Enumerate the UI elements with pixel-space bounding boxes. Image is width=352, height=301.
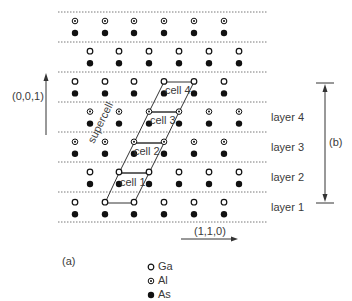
layer-2-label: layer 2	[271, 172, 304, 183]
cell-1-label: cell 1	[120, 177, 146, 188]
ga-atom	[102, 79, 108, 85]
al-atom	[72, 18, 78, 24]
as-atom	[176, 181, 182, 187]
al-atom	[72, 139, 78, 145]
cell-2-label: cell 2	[134, 146, 160, 157]
vertical-axis-label: (0,0,1)	[12, 91, 44, 102]
as-atom	[146, 60, 152, 66]
al-atom	[176, 109, 182, 115]
as-atom	[161, 151, 167, 157]
as-atom	[221, 151, 227, 157]
as-atom	[206, 60, 212, 66]
ga-atom	[87, 48, 93, 54]
legend-item-al: Al	[147, 275, 168, 286]
cell-4-label: cell 4	[165, 85, 191, 96]
vertical-axis-arrow	[44, 73, 49, 135]
as-atom	[72, 90, 78, 96]
as-atom	[221, 90, 227, 96]
as-atom	[72, 151, 78, 157]
as-atom	[176, 120, 182, 126]
al-atom	[87, 109, 93, 115]
ga-atom	[221, 199, 227, 205]
layer-1-label: layer 1	[271, 202, 304, 213]
ga-atom	[146, 48, 152, 54]
as-atom	[102, 90, 108, 96]
al-atom	[102, 18, 108, 24]
as-atom	[236, 60, 242, 66]
al-atom	[161, 18, 167, 24]
ga-atom	[72, 79, 78, 85]
ga-atom	[131, 79, 137, 85]
al-atom	[236, 109, 242, 115]
layer-3-label: layer 3	[271, 142, 304, 153]
ga-atom	[176, 48, 182, 54]
ga-atom	[72, 199, 78, 205]
ga-atom	[191, 79, 197, 85]
legend-label-al: Al	[158, 275, 168, 286]
horizontal-axis-arrow	[181, 237, 238, 242]
as-atom	[191, 90, 197, 96]
as-atom	[102, 211, 108, 217]
ga-atom	[176, 169, 182, 175]
ga-atom	[191, 199, 197, 205]
as-atom	[102, 30, 108, 36]
as-atom	[131, 90, 137, 96]
as-atom	[206, 181, 212, 187]
ga-atom	[116, 48, 122, 54]
as-atom	[221, 30, 227, 36]
legend-label-ga: Ga	[158, 261, 173, 272]
as-atom	[87, 181, 93, 187]
horizontal-axis-label: (1,1,0)	[194, 226, 226, 237]
al-atom	[191, 18, 197, 24]
ga-atom	[146, 169, 152, 175]
as-atom	[161, 211, 167, 217]
legend-item-ga: Ga	[147, 261, 173, 272]
open-circle-icon	[147, 263, 155, 271]
as-atom	[206, 120, 212, 126]
ga-atom	[221, 79, 227, 85]
layer-4-label: layer 4	[271, 112, 304, 123]
legend-label-as: As	[158, 289, 171, 300]
as-atom	[116, 60, 122, 66]
as-atom	[191, 151, 197, 157]
ga-atom	[161, 199, 167, 205]
al-atom	[221, 139, 227, 145]
al-atom	[102, 139, 108, 145]
al-atom	[206, 109, 212, 115]
al-atom	[221, 18, 227, 24]
as-atom	[236, 120, 242, 126]
as-atom	[221, 211, 227, 217]
as-atom	[191, 211, 197, 217]
cell-3-label: cell 3	[150, 115, 176, 126]
as-atom	[87, 60, 93, 66]
dotted-circle-icon	[147, 277, 155, 285]
as-atom	[176, 60, 182, 66]
as-atom	[116, 120, 122, 126]
panel-a-label: (a)	[62, 256, 75, 267]
as-atom	[191, 30, 197, 36]
ga-atom	[102, 199, 108, 205]
as-atom	[72, 30, 78, 36]
ga-atom	[236, 169, 242, 175]
al-atom	[191, 139, 197, 145]
ga-atom	[87, 169, 93, 175]
al-atom	[116, 109, 122, 115]
filled-circle-icon	[147, 291, 155, 299]
ga-atom	[131, 199, 137, 205]
ga-atom	[206, 169, 212, 175]
ga-atom	[236, 48, 242, 54]
as-atom	[72, 211, 78, 217]
as-atom	[161, 30, 167, 36]
as-atom	[131, 211, 137, 217]
ga-atom	[116, 169, 122, 175]
al-atom	[131, 18, 137, 24]
al-atom	[131, 139, 137, 145]
as-atom	[146, 181, 152, 187]
ga-atom	[206, 48, 212, 54]
as-atom	[236, 181, 242, 187]
legend-item-as: As	[147, 289, 171, 300]
al-atom	[161, 139, 167, 145]
panel-b-label: (b)	[329, 137, 342, 148]
as-atom	[131, 30, 137, 36]
as-atom	[102, 151, 108, 157]
